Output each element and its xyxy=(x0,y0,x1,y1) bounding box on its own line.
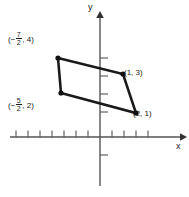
vertex-label-d: (−52, 2) xyxy=(8,97,34,113)
vertex-label-c: (2, 1) xyxy=(133,110,152,118)
vertex-point-d xyxy=(58,90,63,95)
x-axis-arrow-icon xyxy=(180,133,187,141)
vertex-label-d-fraction: 52 xyxy=(16,97,22,113)
vertex-label-a-minus: − xyxy=(11,35,16,44)
y-axis-label: y xyxy=(88,2,93,12)
vertex-label-a-numerator: 7 xyxy=(16,31,22,39)
vertex-label-a: (−72, 4) xyxy=(8,31,34,47)
coordinate-plane-figure: y x (−72, 4) (−52, 2) (1, 3) (2, 1) xyxy=(0,0,189,197)
y-axis-arrow-icon xyxy=(96,11,104,18)
vertex-label-a-denominator: 2 xyxy=(16,39,22,47)
vertex-label-a-rest: , 4) xyxy=(22,35,34,44)
parallelogram-shape xyxy=(58,58,136,113)
vertex-label-a-fraction: 72 xyxy=(16,31,22,47)
vertex-point-a xyxy=(55,55,60,60)
vertex-label-d-minus: − xyxy=(11,101,16,110)
vertex-label-d-denominator: 2 xyxy=(16,105,22,113)
vertex-label-d-numerator: 5 xyxy=(16,97,22,105)
vertex-label-d-rest: , 2) xyxy=(22,101,34,110)
x-axis-ticks xyxy=(16,131,148,138)
vertex-label-b: (1, 3) xyxy=(124,69,143,77)
x-axis-label: x xyxy=(176,141,181,151)
